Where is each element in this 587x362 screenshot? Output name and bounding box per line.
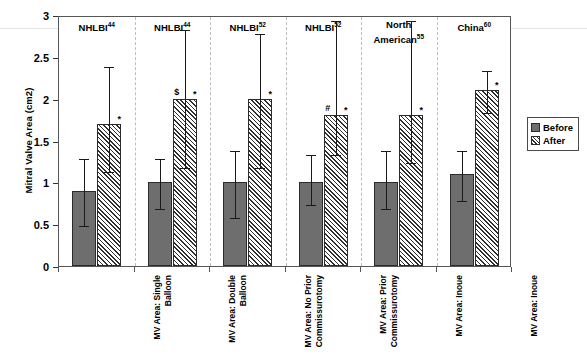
error-bar-cap-lower [457, 201, 467, 202]
x-tick-mark [58, 267, 59, 272]
error-bar-cap-upper [155, 159, 165, 160]
error-bar-cap-lower [180, 168, 190, 169]
significance-annotation: # [325, 104, 330, 113]
error-bar-cap-lower [406, 163, 416, 164]
group-header-name: NHLBI [154, 22, 183, 33]
error-bar-cap-upper [255, 34, 265, 35]
error-bar [185, 30, 186, 168]
group-header-name: China [457, 22, 483, 33]
significance-annotation: * [344, 106, 348, 115]
legend-item-after: After [531, 134, 573, 147]
y-tick-label: 2 [19, 94, 49, 106]
significance-annotation: * [193, 90, 197, 99]
group-header-reference: 52 [259, 21, 266, 28]
error-bar-cap-upper [457, 151, 467, 152]
error-bar-cap-lower [306, 205, 316, 206]
x-tick-mark [436, 267, 437, 272]
y-tick-label: 1.5 [19, 136, 49, 148]
error-bar-cap-upper [79, 159, 89, 160]
group-header: China60 [437, 19, 513, 34]
group-divider [437, 17, 438, 266]
x-tick-mark [134, 267, 135, 272]
x-tick-mark [511, 267, 512, 272]
error-bar [84, 159, 85, 226]
error-bar [462, 151, 463, 201]
significance-annotation: * [419, 106, 423, 115]
significance-annotation: * [268, 90, 272, 99]
error-bar [411, 21, 412, 163]
error-bar-cap-lower [331, 155, 341, 156]
x-tick-mark [360, 267, 361, 272]
group-header-name: NHLBI [79, 22, 108, 33]
group-header: NHLBI52 [210, 19, 286, 34]
error-bar [109, 67, 110, 172]
error-bar-cap-lower [155, 209, 165, 210]
x-tick-mark [285, 267, 286, 272]
error-bar-cap-lower [230, 218, 240, 219]
x-category-label: MV Area: No Prior Commissurotomy [303, 275, 325, 362]
error-bar [160, 159, 161, 209]
y-tick-label: 0 [19, 261, 49, 273]
error-bar-cap-upper [482, 71, 492, 72]
error-bar-cap-upper [104, 67, 114, 68]
group-header: NHLBI44 [135, 19, 211, 34]
hatched-swatch-icon [531, 136, 540, 145]
group-header-name: NHLBI [305, 22, 334, 33]
error-bar-cap-upper [230, 151, 240, 152]
solid-grey-swatch-icon [531, 123, 540, 132]
error-bar-cap-upper [306, 155, 316, 156]
plot-area: NHLBI44NHLBI44NHLBI52NHLBI52North Americ… [58, 16, 511, 267]
error-bar-cap-upper [381, 151, 391, 152]
error-bar-cap-lower [104, 172, 114, 173]
y-tick-label: 2.5 [19, 52, 49, 64]
group-header-reference: 55 [417, 33, 424, 40]
group-header-name: NHLBI [230, 22, 259, 33]
error-bar [260, 34, 261, 168]
error-bar-cap-lower [482, 113, 492, 114]
error-bar-cap-lower [79, 226, 89, 227]
significance-annotation: * [117, 115, 121, 124]
significance-annotation: * [495, 81, 499, 90]
x-category-label: MV Area: Double Balloon [227, 275, 249, 362]
legend-item-before: Before [531, 121, 573, 134]
error-bar-cap-lower [255, 168, 265, 169]
group-header: North American55 [361, 19, 437, 46]
y-tick-label: 3 [19, 10, 49, 22]
error-bar-cap-upper [406, 21, 416, 22]
group-divider [286, 17, 287, 266]
y-tick-label: 1 [19, 177, 49, 189]
group-divider [210, 17, 211, 266]
group-divider [135, 17, 136, 266]
error-bar [311, 155, 312, 205]
x-category-label: MV Area: Prior Commissurotomy [378, 275, 400, 362]
group-header: NHLBI44 [59, 19, 135, 34]
bar-chart: Mitral Valve Area (cm2) 00.511.522.53 NH… [0, 0, 587, 362]
legend-label-before: Before [543, 122, 573, 133]
group-header-reference: 44 [183, 21, 190, 28]
x-category-label: MV Area: Inoue [454, 275, 465, 362]
legend-label-after: After [543, 135, 565, 146]
error-bar [386, 151, 387, 210]
group-divider [361, 17, 362, 266]
x-category-label: MV Area: Single Balloon [152, 275, 174, 362]
chart-legend: Before After [527, 117, 579, 151]
error-bar [235, 151, 236, 218]
error-bar [487, 71, 488, 113]
error-bar-cap-upper [331, 21, 341, 22]
error-bar-cap-lower [381, 209, 391, 210]
plot-inner: NHLBI44NHLBI44NHLBI52NHLBI52North Americ… [59, 17, 510, 266]
significance-annotation: $ [174, 88, 179, 97]
group-header: NHLBI52 [286, 19, 362, 34]
group-header-reference: 60 [484, 21, 491, 28]
y-tick-label: 0.5 [19, 219, 49, 231]
x-category-label: MV Area: Inoue [529, 275, 540, 362]
x-tick-mark [209, 267, 210, 272]
error-bar [336, 21, 337, 155]
group-header-reference: 44 [108, 21, 115, 28]
error-bar-cap-upper [180, 30, 190, 31]
bar-after-group-6 [475, 90, 499, 266]
